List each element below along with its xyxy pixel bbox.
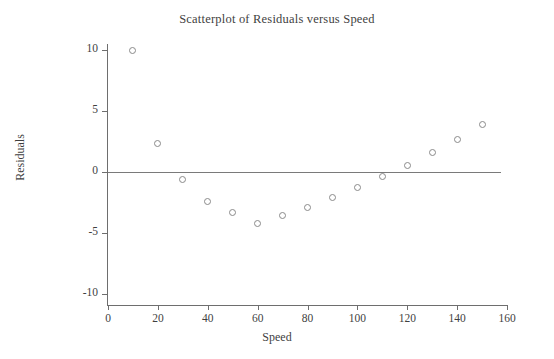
- zero-reference-line: [108, 172, 501, 173]
- data-point: [304, 204, 311, 211]
- x-axis-tick-label: 40: [188, 312, 228, 324]
- data-point: [179, 176, 186, 183]
- data-point: [429, 149, 436, 156]
- y-axis-tick-label: -5: [56, 225, 98, 237]
- x-axis-tick: [357, 305, 358, 310]
- y-axis-tick-label: 5: [56, 103, 98, 115]
- y-axis-tick-label: -10: [56, 286, 98, 298]
- x-axis-tick: [208, 305, 209, 310]
- y-axis-tick-label: 10: [56, 42, 98, 54]
- x-axis-tick: [507, 305, 508, 310]
- x-axis-tick-label: 0: [88, 312, 128, 324]
- x-axis-title: Speed: [0, 330, 554, 345]
- x-axis-tick-label: 140: [437, 312, 477, 324]
- data-point: [354, 184, 361, 191]
- data-point: [479, 121, 486, 128]
- y-axis-tick: [102, 50, 107, 51]
- data-point: [154, 140, 161, 147]
- x-axis-tick: [258, 305, 259, 310]
- y-axis-tick: [102, 233, 107, 234]
- chart-title: Scatterplot of Residuals versus Speed: [0, 12, 554, 27]
- x-axis-tick-label: 160: [487, 312, 527, 324]
- plot-area: [108, 50, 507, 294]
- x-axis-tick-label: 20: [138, 312, 178, 324]
- data-point: [454, 136, 461, 143]
- data-point: [254, 220, 261, 227]
- data-point: [379, 173, 386, 180]
- data-point: [204, 198, 211, 205]
- y-axis-tick: [102, 111, 107, 112]
- y-axis-title: Residuals: [13, 103, 28, 213]
- data-point: [329, 194, 336, 201]
- data-point: [404, 162, 411, 169]
- data-point: [129, 47, 136, 54]
- data-point: [279, 212, 286, 219]
- y-axis-tick-label: 0: [56, 164, 98, 176]
- x-axis-tick: [158, 305, 159, 310]
- x-axis-tick: [407, 305, 408, 310]
- x-axis-tick-label: 100: [337, 312, 377, 324]
- y-axis-tick: [102, 172, 107, 173]
- x-axis-tick-label: 80: [288, 312, 328, 324]
- scatterplot-figure: Scatterplot of Residuals versus Speed 02…: [0, 0, 554, 359]
- x-axis-tick: [308, 305, 309, 310]
- x-axis-tick-label: 120: [387, 312, 427, 324]
- y-axis-tick: [102, 294, 107, 295]
- x-axis-tick: [108, 305, 109, 310]
- data-point: [229, 209, 236, 216]
- x-axis-tick-label: 60: [238, 312, 278, 324]
- x-axis-tick: [457, 305, 458, 310]
